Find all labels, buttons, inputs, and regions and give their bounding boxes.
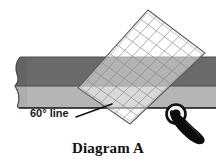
- rotary-cutter-handle[interactable]: [170, 110, 205, 144]
- diagram-figure: 60° line Diagram A: [0, 0, 216, 168]
- rotary-cutter-group[interactable]: [167, 105, 205, 145]
- figure-caption: Diagram A: [72, 140, 144, 156]
- angle-label-60-line: 60° line: [30, 107, 69, 119]
- diagram-canvas: 60° line Diagram A: [0, 0, 216, 168]
